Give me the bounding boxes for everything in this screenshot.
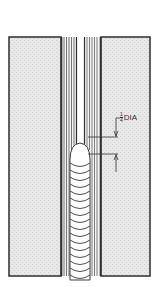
- weld-bead: [70, 143, 90, 280]
- dimension-label: 1 4 DIA: [120, 112, 137, 123]
- weld-diagram: [0, 0, 160, 287]
- dimension-fraction: 1 4: [120, 112, 123, 123]
- left-plate: [9, 37, 77, 276]
- dimension-text: DIA: [124, 113, 137, 122]
